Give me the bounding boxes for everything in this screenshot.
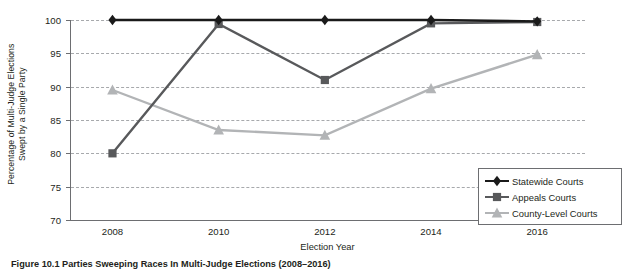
- figure-caption: Figure 10.1 Parties Sweeping Races In Mu…: [11, 259, 585, 269]
- y-tick-mark: [66, 220, 71, 221]
- square-marker: [493, 193, 501, 201]
- chart-legend: Statewide CourtsAppeals CourtsCounty-Lev…: [478, 168, 622, 225]
- y-tick-label: 80: [21, 148, 61, 159]
- y-tick-label: 90: [21, 81, 61, 92]
- series-statewide-courts: [108, 15, 541, 27]
- legend-item[interactable]: County-Level Courts: [485, 205, 621, 221]
- triangle-marker: [107, 84, 118, 94]
- diamond-marker: [108, 15, 116, 25]
- diamond-marker: [321, 15, 329, 25]
- legend-item-label: Statewide Courts: [509, 176, 583, 187]
- x-tick-label: 2014: [401, 226, 461, 237]
- y-tick-label: 95: [21, 48, 61, 59]
- legend-item-label: County-Level Courts: [509, 208, 597, 219]
- square-marker: [108, 149, 116, 157]
- legend-item-label: Appeals Courts: [509, 192, 576, 203]
- y-tick-label: 75: [21, 181, 61, 192]
- triangle-marker: [492, 207, 503, 217]
- triangle-icon: [485, 206, 509, 220]
- legend-item[interactable]: Statewide Courts: [485, 173, 621, 189]
- diamond-marker: [493, 176, 501, 186]
- diamond-icon: [485, 174, 509, 188]
- x-tick-label: 2016: [507, 226, 567, 237]
- x-tick-label: 2008: [82, 226, 142, 237]
- y-axis-title-line-1: Percentage of Multi-Judge Elections: [6, 0, 17, 228]
- square-marker: [321, 76, 329, 84]
- series-line: [112, 55, 537, 136]
- x-tick-label: 2010: [189, 226, 249, 237]
- legend-item[interactable]: Appeals Courts: [485, 189, 621, 205]
- series-county-level-courts: [107, 49, 542, 140]
- triangle-marker: [532, 49, 543, 59]
- square-icon: [485, 190, 509, 204]
- x-axis-title: Election Year: [70, 242, 585, 252]
- y-tick-label: 70: [21, 215, 61, 226]
- x-tick-label: 2012: [295, 226, 355, 237]
- y-tick-label: 100: [21, 15, 61, 26]
- plot-area: 707580859095100 20082010201220142016 Sta…: [70, 20, 585, 220]
- y-tick-label: 85: [21, 115, 61, 126]
